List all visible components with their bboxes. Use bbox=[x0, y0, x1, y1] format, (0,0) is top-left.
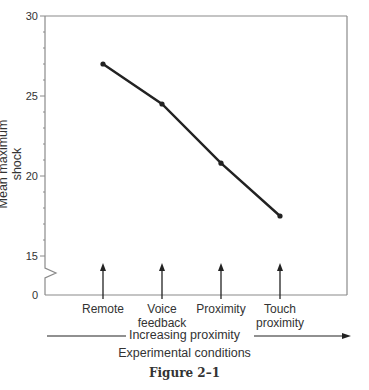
arrow-up-icon bbox=[100, 263, 106, 271]
data-line bbox=[103, 64, 280, 216]
data-point bbox=[159, 101, 164, 106]
plot-frame bbox=[45, 16, 347, 295]
data-point bbox=[277, 213, 282, 218]
x-axis-label: Experimental conditions bbox=[0, 346, 369, 360]
increasing-proximity-label: Increasing proximity bbox=[126, 328, 243, 342]
y-tick-label: 20 bbox=[26, 170, 38, 182]
y-axis-label: Mean maximum shock bbox=[0, 104, 24, 224]
arrow-up-icon bbox=[159, 263, 165, 271]
arrow-up-icon bbox=[218, 263, 224, 271]
category-arrows bbox=[100, 263, 283, 299]
y-tick-label: 15 bbox=[26, 250, 38, 262]
data-point bbox=[218, 161, 223, 166]
axis-break-icon bbox=[45, 256, 56, 295]
x-arrow-label: Increasing proximity bbox=[0, 328, 369, 342]
x-category-label: Touchproximity bbox=[240, 302, 320, 330]
y-axis-ticks bbox=[40, 16, 45, 256]
y-tick-label: 25 bbox=[26, 90, 38, 102]
y-tick-label: 0 bbox=[32, 289, 38, 301]
arrow-up-icon bbox=[277, 263, 283, 271]
data-point bbox=[100, 61, 105, 66]
figure-caption: Figure 2–1 bbox=[0, 366, 369, 380]
y-tick-label: 30 bbox=[26, 10, 38, 22]
y-axis-tick-labels: 015202530 bbox=[26, 10, 38, 301]
